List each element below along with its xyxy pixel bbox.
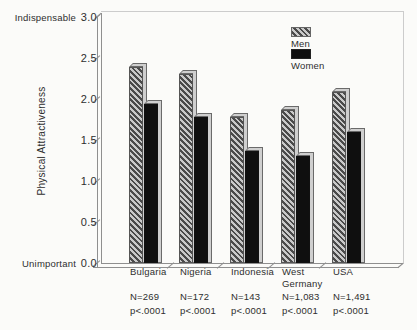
bar-side-women-bulgaria bbox=[158, 100, 162, 263]
category-label-indonesia: Indonesia bbox=[231, 266, 283, 278]
legend-swatch-women bbox=[291, 49, 311, 59]
y-tick-label: 0.0 bbox=[70, 256, 97, 270]
p-value-bulgaria: p<.0001 bbox=[130, 305, 186, 316]
plot-frame-top bbox=[101, 11, 403, 12]
y-axis-bottom-label: Unimportant bbox=[0, 258, 76, 269]
y-axis-line-front bbox=[97, 17, 98, 267]
y-axis-line-back bbox=[101, 13, 102, 263]
bar-men-nigeria bbox=[179, 74, 193, 263]
legend-label-women: Women bbox=[291, 60, 325, 71]
y-tick-label: 1.0 bbox=[70, 174, 97, 188]
bar-women-bulgaria bbox=[144, 104, 158, 263]
y-axis-top-label: Indispensable bbox=[0, 12, 76, 23]
bar-men-bulgaria bbox=[129, 67, 143, 263]
bar-side-women-west-germany bbox=[310, 152, 314, 263]
y-tick-label: 1.5 bbox=[70, 133, 97, 147]
legend-swatch-men bbox=[291, 27, 311, 37]
figure-canvas: Indispensable Unimportant Physical Attra… bbox=[0, 0, 417, 330]
bar-side-women-nigeria bbox=[208, 113, 212, 263]
plot-frame-right bbox=[403, 11, 404, 264]
sample-size-indonesia: N=143 bbox=[231, 291, 287, 302]
bar-side-women-indonesia bbox=[259, 147, 263, 263]
bar-women-west-germany bbox=[296, 156, 310, 263]
bar-women-nigeria bbox=[194, 117, 208, 263]
y-axis-title: Physical Attractiveness bbox=[35, 41, 49, 241]
x-axis-line-back bbox=[101, 263, 403, 264]
category-label-nigeria: Nigeria bbox=[180, 266, 232, 278]
sample-size-west-germany: N=1,083 bbox=[282, 291, 338, 302]
y-tick-label: 2.0 bbox=[70, 92, 97, 106]
category-label-bulgaria: Bulgaria bbox=[130, 266, 182, 278]
p-value-usa: p<.0001 bbox=[333, 305, 389, 316]
y-tick-label: 0.5 bbox=[70, 215, 97, 229]
bar-women-usa bbox=[347, 132, 361, 263]
sample-size-usa: N=1,491 bbox=[333, 291, 389, 302]
bar-women-indonesia bbox=[245, 151, 259, 263]
p-value-west-germany: p<.0001 bbox=[282, 305, 338, 316]
p-value-indonesia: p<.0001 bbox=[231, 305, 287, 316]
bar-men-indonesia bbox=[230, 117, 244, 263]
category-label-west-germany: West Germany bbox=[282, 266, 334, 290]
p-value-nigeria: p<.0001 bbox=[180, 305, 236, 316]
bar-men-west-germany bbox=[281, 110, 295, 263]
y-tick-label: 3.0 bbox=[70, 10, 97, 24]
sample-size-nigeria: N=172 bbox=[180, 291, 236, 302]
sample-size-bulgaria: N=269 bbox=[130, 291, 186, 302]
bar-side-women-usa bbox=[361, 128, 365, 263]
legend-label-men: Men bbox=[291, 38, 310, 49]
bar-men-usa bbox=[332, 92, 346, 263]
y-tick-label: 2.5 bbox=[70, 51, 97, 65]
category-label-usa: USA bbox=[333, 266, 385, 278]
